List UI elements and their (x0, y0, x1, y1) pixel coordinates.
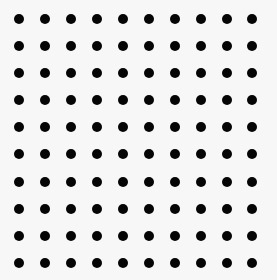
grid-dot (118, 41, 128, 51)
grid-dot (222, 68, 232, 78)
grid-dot (196, 122, 206, 132)
grid-dot (222, 204, 232, 214)
grid-dot (66, 231, 76, 241)
grid-dot (14, 14, 24, 24)
grid-dot (92, 149, 102, 159)
grid-dot (144, 149, 154, 159)
grid-dot (144, 204, 154, 214)
grid-dot (196, 68, 206, 78)
grid-dot (118, 231, 128, 241)
grid-dot (247, 95, 257, 105)
grid-dot (66, 14, 76, 24)
grid-dot (40, 41, 50, 51)
grid-dot (118, 177, 128, 187)
grid-dot (92, 177, 102, 187)
grid-dot (247, 122, 257, 132)
grid-dot (66, 204, 76, 214)
grid-dot (222, 95, 232, 105)
grid-dot (196, 231, 206, 241)
grid-dot (170, 149, 180, 159)
grid-dot (170, 41, 180, 51)
grid-dot (144, 177, 154, 187)
grid-dot (14, 231, 24, 241)
grid-dot (92, 14, 102, 24)
grid-dot (40, 14, 50, 24)
grid-dot (196, 149, 206, 159)
grid-dot (40, 231, 50, 241)
grid-dot (196, 14, 206, 24)
grid-dot (118, 204, 128, 214)
grid-dot (247, 149, 257, 159)
grid-dot (196, 177, 206, 187)
grid-dot (247, 204, 257, 214)
grid-dot (40, 177, 50, 187)
grid-dot (196, 258, 206, 268)
grid-dot (92, 68, 102, 78)
grid-dot (247, 41, 257, 51)
grid-dot (66, 149, 76, 159)
grid-dot (222, 122, 232, 132)
grid-dot (118, 122, 128, 132)
grid-dot (247, 231, 257, 241)
grid-dot (247, 68, 257, 78)
grid-dot (66, 41, 76, 51)
grid-dot (14, 258, 24, 268)
grid-dot (144, 14, 154, 24)
dot-grid (0, 0, 277, 280)
grid-dot (66, 258, 76, 268)
grid-dot (170, 204, 180, 214)
grid-dot (144, 258, 154, 268)
grid-dot (40, 95, 50, 105)
grid-dot (247, 177, 257, 187)
grid-dot (170, 177, 180, 187)
grid-dot (14, 177, 24, 187)
grid-dot (222, 149, 232, 159)
grid-dot (92, 204, 102, 214)
grid-dot (222, 231, 232, 241)
grid-dot (170, 122, 180, 132)
grid-dot (40, 204, 50, 214)
grid-dot (14, 95, 24, 105)
grid-dot (196, 41, 206, 51)
grid-dot (196, 95, 206, 105)
grid-dot (222, 41, 232, 51)
grid-dot (92, 41, 102, 51)
grid-dot (222, 14, 232, 24)
grid-dot (222, 258, 232, 268)
grid-dot (14, 149, 24, 159)
grid-dot (40, 122, 50, 132)
grid-dot (144, 122, 154, 132)
grid-dot (40, 68, 50, 78)
grid-dot (170, 68, 180, 78)
grid-dot (222, 177, 232, 187)
grid-dot (144, 231, 154, 241)
grid-dot (170, 95, 180, 105)
grid-dot (40, 149, 50, 159)
grid-dot (170, 231, 180, 241)
grid-dot (118, 14, 128, 24)
grid-dot (118, 149, 128, 159)
grid-dot (66, 68, 76, 78)
grid-dot (170, 14, 180, 24)
grid-dot (92, 231, 102, 241)
grid-dot (14, 41, 24, 51)
grid-dot (118, 258, 128, 268)
grid-dot (14, 204, 24, 214)
grid-dot (118, 95, 128, 105)
grid-dot (247, 258, 257, 268)
grid-dot (144, 95, 154, 105)
grid-dot (247, 14, 257, 24)
grid-dot (66, 177, 76, 187)
grid-dot (144, 68, 154, 78)
grid-dot (14, 68, 24, 78)
grid-dot (40, 258, 50, 268)
grid-dot (92, 258, 102, 268)
grid-dot (92, 122, 102, 132)
grid-dot (14, 122, 24, 132)
grid-dot (196, 204, 206, 214)
grid-dot (118, 68, 128, 78)
grid-dot (144, 41, 154, 51)
grid-dot (170, 258, 180, 268)
grid-dot (92, 95, 102, 105)
grid-dot (66, 122, 76, 132)
